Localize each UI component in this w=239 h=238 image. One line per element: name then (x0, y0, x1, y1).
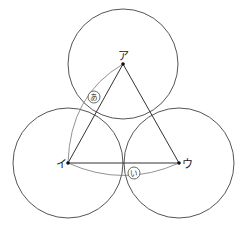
vertex-i-label: イ (56, 158, 67, 171)
arc-i-to-u (68, 163, 179, 176)
triangle (68, 64, 179, 163)
vertex-u-dot (177, 161, 181, 165)
arc-label-a: あ (90, 93, 97, 102)
geometry-diagram: ア イ ウ あ い (0, 0, 239, 238)
vertex-u-label: ウ (182, 158, 193, 171)
vertex-a-label: ア (118, 50, 129, 63)
arc-label-i: い (130, 169, 137, 178)
